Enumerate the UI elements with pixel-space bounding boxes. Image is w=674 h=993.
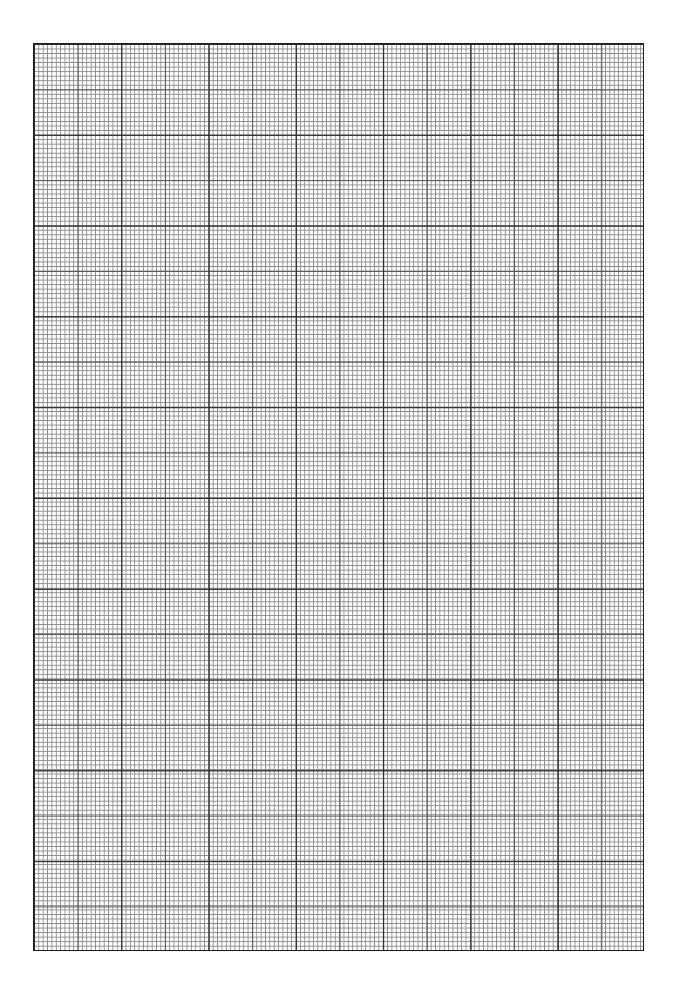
- graph-paper-sheet: [0, 0, 674, 993]
- millimeter-grid: [33, 43, 644, 951]
